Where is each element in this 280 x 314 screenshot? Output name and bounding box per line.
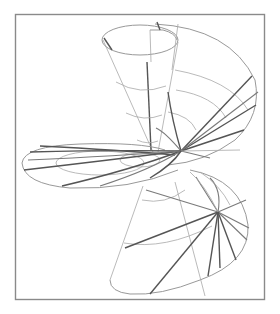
- helicoid-wireframe-figure: [0, 0, 280, 314]
- figure-frame: [16, 15, 265, 300]
- middle-ellipse-sheet: [22, 144, 181, 189]
- lower-cone: [110, 170, 249, 296]
- right-sweep-sheet: [155, 22, 258, 165]
- upper-cone: [102, 25, 178, 152]
